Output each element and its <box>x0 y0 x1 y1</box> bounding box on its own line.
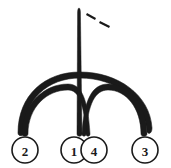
graph-diagram: 2 1 4 3 <box>0 0 171 168</box>
node-3[interactable]: 3 <box>132 137 158 163</box>
diagram-canvas: 2 1 4 3 <box>0 0 171 168</box>
dash-segment-2 <box>99 21 110 28</box>
node-2[interactable]: 2 <box>12 137 38 163</box>
node-2-label: 2 <box>22 144 29 159</box>
dashed-ray-apex <box>86 13 110 28</box>
node-1-label: 1 <box>71 144 78 159</box>
dash-segment-1 <box>86 13 96 20</box>
node-4-label: 4 <box>91 144 98 159</box>
edge-arc-4-3 <box>82 84 147 136</box>
edge-spike-1 <box>77 8 82 136</box>
node-4[interactable]: 4 <box>81 137 107 163</box>
node-3-label: 3 <box>142 144 149 159</box>
